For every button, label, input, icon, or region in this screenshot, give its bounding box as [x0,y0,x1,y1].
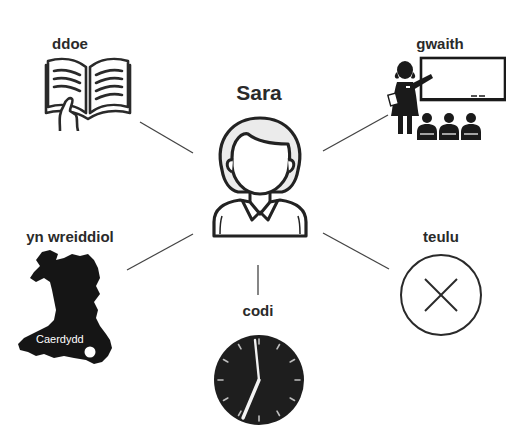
connector-ddoe [140,122,193,153]
connector-teulu [323,233,389,269]
open-book-icon [44,55,132,131]
mind-map-diagram: Sara ddoe gwaith [0,0,506,438]
node-label-codi: codi [243,303,274,318]
connector-yn-wreiddiol [127,234,193,270]
map-city-label: Caerdydd [36,334,84,345]
clock-icon [213,334,305,426]
node-label-teulu: teulu [423,229,459,244]
wales-map-icon [14,248,116,368]
woman-person-icon [200,108,320,240]
node-label-gwaith: gwaith [416,36,464,51]
node-label-ddoe: ddoe [52,36,88,51]
teacher-classroom-icon [385,54,506,140]
connector-gwaith [323,115,388,151]
circle-x-icon [398,252,484,338]
node-label-yn-wreiddiol: yn wreiddiol [26,229,114,244]
center-label: Sara [236,82,282,103]
